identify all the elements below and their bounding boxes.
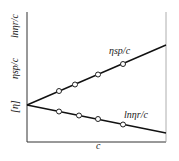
lower-line-label: lnηr/c: [124, 109, 148, 120]
y-ln-label: lnηr/c: [9, 14, 20, 38]
x-axis-label: c: [96, 140, 100, 151]
chart-plot: [0, 0, 179, 161]
y-intercept-label: [η]: [9, 100, 20, 113]
y-sp-label: ηsp/c: [9, 58, 20, 79]
upper-line-label: ηsp/c: [109, 45, 130, 56]
